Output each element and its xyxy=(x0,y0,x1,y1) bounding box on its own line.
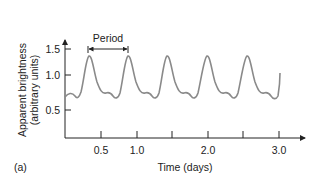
light-curve-chart: 1.5 1.0 0.5 0.5 1.0 2.0 3.0 Time (days) … xyxy=(0,0,329,185)
y-ticks: 1.5 1.0 0.5 xyxy=(45,43,71,116)
x-tick-label: 2.0 xyxy=(201,144,216,156)
x-ticks: 0.5 1.0 2.0 3.0 xyxy=(94,131,287,156)
y-tick-label: 0.5 xyxy=(45,104,60,116)
period-label: Period xyxy=(93,32,124,44)
x-tick-label: 0.5 xyxy=(94,144,109,156)
x-axis-label: Time (days) xyxy=(157,161,212,173)
y-axis-label-line1: Apparent brightness xyxy=(16,43,28,137)
x-tick-label: 3.0 xyxy=(272,144,287,156)
period-annotation: Period xyxy=(88,32,128,53)
light-curve-line xyxy=(65,56,280,99)
x-tick-label: 1.0 xyxy=(130,144,145,156)
y-axis-label-line2: (arbitrary units) xyxy=(28,55,40,126)
y-tick-label: 1.0 xyxy=(45,69,60,81)
panel-label: (a) xyxy=(14,161,27,173)
y-tick-label: 1.5 xyxy=(45,43,60,55)
